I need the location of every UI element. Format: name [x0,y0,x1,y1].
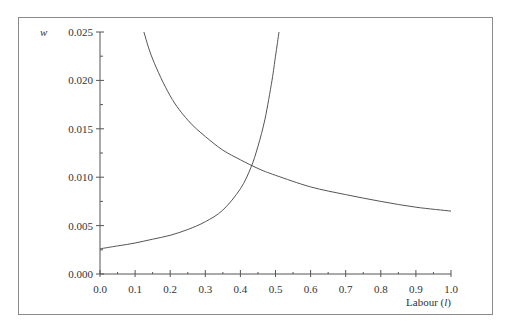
x-tick-label: 0.4 [234,283,248,295]
x-tick-label: 0.2 [163,283,177,295]
x-axis-label: Labour (l) [406,296,451,309]
x-tick-label: 0.8 [374,283,388,295]
rising-curve [100,32,279,249]
y-tick-label: 0.025 [68,26,93,38]
x-tick-label: 0.3 [198,283,212,295]
x-tick-label: 0.5 [269,283,283,295]
x-tick-label: 0.0 [93,283,107,295]
x-tick-label: 0.7 [339,283,353,295]
y-axis-label: w [40,26,48,38]
y-tick-label: 0.010 [68,171,93,183]
y-tick-label: 0.000 [68,268,93,280]
y-tick-label: 0.005 [68,220,93,232]
x-tick-label: 0.9 [409,283,423,295]
x-tick-label: 0.1 [128,283,142,295]
y-tick-label: 0.015 [68,123,93,135]
chart: 0.00.10.20.30.40.50.60.70.80.91.00.0000.… [0,0,507,330]
falling-curve [144,32,451,211]
x-tick-label: 1.0 [444,283,458,295]
x-tick-label: 0.6 [304,283,318,295]
y-tick-label: 0.020 [68,74,93,86]
